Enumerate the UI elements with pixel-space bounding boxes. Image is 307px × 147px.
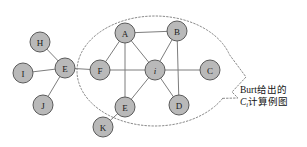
- graph-canvas: HIJEFABiCEDK: [0, 0, 307, 147]
- node-label-El: E: [62, 64, 68, 74]
- edge-A-i: [131, 40, 149, 62]
- node-label-K: K: [100, 123, 107, 133]
- edge-I-El: [32, 69, 55, 72]
- edge-F-A: [105, 41, 119, 62]
- node-B[interactable]: B: [167, 21, 187, 41]
- node-F[interactable]: F: [90, 60, 110, 80]
- node-label-F: F: [97, 66, 102, 76]
- callout-label-line2: Ci计算例图: [240, 96, 288, 111]
- node-label-B: B: [174, 27, 180, 37]
- edge-B-D: [177, 40, 178, 95]
- node-label-J: J: [41, 101, 45, 111]
- node-label-Eb: E: [122, 103, 128, 113]
- node-layer: HIJEFABiCEDK: [13, 21, 220, 137]
- node-H[interactable]: H: [30, 32, 50, 52]
- node-Eb[interactable]: E: [115, 97, 135, 117]
- edge-B-i: [160, 39, 173, 61]
- node-label-A: A: [122, 29, 129, 39]
- edge-i-Eb: [131, 77, 149, 99]
- callout-c-suffix: 计算例图: [248, 97, 288, 107]
- node-J[interactable]: J: [33, 95, 53, 115]
- node-label-C: C: [207, 66, 213, 76]
- node-I[interactable]: I: [13, 63, 33, 83]
- node-C[interactable]: C: [200, 60, 220, 80]
- node-label-H: H: [37, 38, 44, 48]
- edge-H-El: [47, 49, 59, 61]
- node-label-D: D: [176, 101, 183, 111]
- node-D[interactable]: D: [169, 95, 189, 115]
- burt-constraint-example-figure: HIJEFABiCEDK Burt给出的 Ci计算例图: [0, 0, 307, 147]
- edge-A-B: [134, 31, 167, 32]
- edge-i-D: [160, 78, 173, 97]
- edge-J-El: [48, 76, 60, 97]
- node-El[interactable]: E: [55, 58, 75, 78]
- callout-label-line1: Burt给出的: [240, 84, 287, 96]
- node-K[interactable]: K: [93, 117, 113, 137]
- node-i[interactable]: i: [145, 60, 165, 80]
- node-label-I: I: [22, 69, 25, 79]
- node-A[interactable]: A: [115, 23, 135, 43]
